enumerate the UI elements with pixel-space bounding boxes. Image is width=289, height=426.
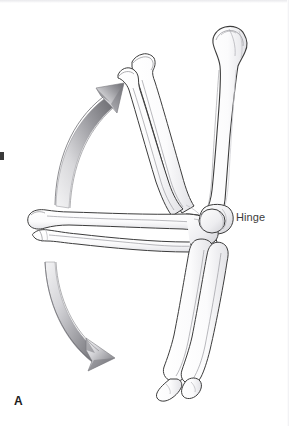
extension-arrow	[45, 262, 115, 371]
right-edge-band	[287, 0, 289, 426]
forearm-down-bones	[156, 239, 228, 401]
hinge-label: Hinge	[236, 211, 265, 224]
forearm-flexed-bones	[118, 54, 194, 216]
top-edge-band	[0, 0, 289, 3]
forearm-extended-bones	[28, 210, 218, 252]
flexion-arrow	[55, 83, 124, 208]
figure-panel-a: Hinge A	[0, 0, 289, 426]
panel-label-a: A	[14, 394, 23, 408]
crop-mark	[0, 152, 4, 160]
humerus-bone	[200, 26, 247, 234]
